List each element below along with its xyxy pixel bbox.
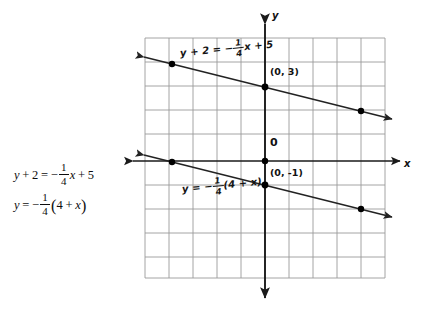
lower-label-fraction: 14 [213,176,224,196]
eq1-plus2: + [75,168,87,183]
point-label-0-3: (0, 3) [270,66,299,77]
eq1-denominator: 4 [59,176,69,187]
origin-label: 0 [270,136,278,149]
lower-label-denominator: 4 [214,187,223,196]
eq1-plus: + [20,168,32,183]
eq2-open-paren: ( [51,198,57,214]
data-point-upper-right [358,108,364,114]
lower-label-numerator: 1 [213,176,222,185]
upper-label-numerator: 1 [234,38,243,47]
eq1-fraction: 14 [59,162,69,187]
equations-panel: y+2=−14x+5 y=−14(4+x) [14,160,134,220]
data-point-upper-left [169,61,175,67]
eq1-equals: = [38,168,50,183]
lower-label-part2: (4 + x) [223,176,262,191]
eq1-five: 5 [88,168,94,183]
eq2-minus: − [32,198,39,213]
data-point-lower-left [169,159,175,165]
data-point-0-3 [262,84,269,91]
equation-line-2: y=−14(4+x) [14,190,134,220]
lower-label-part1: y = − [181,181,213,195]
upper-label-denominator: 4 [235,48,244,57]
data-point-0-neg1 [262,182,269,189]
eq2-denominator: 4 [40,206,50,217]
eq2-numerator: 1 [40,192,50,203]
eq2-plus: + [63,198,75,213]
eq1-numerator: 1 [59,162,69,173]
eq1-minus: − [51,168,58,183]
upper-label-part2: x + 5 [244,39,274,53]
eq2-close-paren: ) [81,198,87,214]
equation-line-1: y+2=−14x+5 [14,160,134,190]
point-label-0-neg1: (0, -1) [270,167,303,178]
upper-label-part1: y + 2 = − [179,42,233,58]
data-point-lower-right [358,206,364,212]
eq2-equals: = [20,198,32,213]
y-axis-label: y [272,10,279,21]
data-point-origin-marker [262,158,268,164]
eq2-fraction: 14 [40,192,50,217]
x-axis-label: x [404,158,410,169]
